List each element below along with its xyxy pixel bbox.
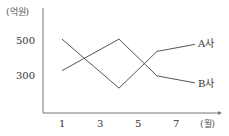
series-label-b: B사 (198, 78, 214, 89)
y-tick-300: 300 (16, 70, 35, 81)
series-label-a: A사 (197, 38, 214, 49)
x-tick-3: 3 (97, 118, 103, 129)
x-axis-unit: (월) (200, 118, 215, 129)
series-layer (62, 39, 195, 88)
x-tick-1: 1 (59, 118, 65, 129)
y-tick-500: 500 (16, 35, 35, 46)
line-chart: (억원) 500 300 1 3 5 7 (월) A사 B사 (0, 0, 229, 136)
series-line-0 (62, 39, 195, 88)
x-axis-arrow-icon (218, 111, 222, 115)
x-tick-7: 7 (173, 118, 179, 129)
series-line-1 (62, 39, 195, 83)
y-axis-unit: (억원) (6, 6, 29, 17)
x-tick-5: 5 (135, 118, 141, 129)
